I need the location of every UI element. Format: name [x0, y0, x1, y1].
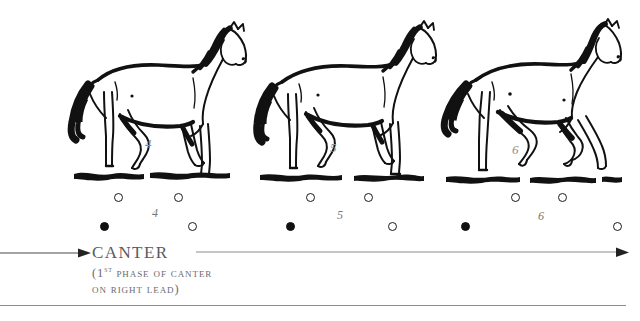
hoof-dot-hind-left-5: [306, 193, 315, 202]
frame-number-6: 6: [512, 142, 519, 158]
ground-line-6: [444, 172, 624, 186]
gait-subtitle-line-2: on right lead): [92, 282, 180, 297]
gait-title: Canter: [92, 243, 168, 263]
hoof-dot-hind-right-4: [174, 193, 183, 202]
direction-arrow-left: [0, 247, 92, 259]
footfall-label-5: 5: [337, 208, 343, 223]
horse-illustration-6: [432, 18, 632, 183]
ground-line-4: [72, 168, 232, 182]
hoof-dot-fore-right-5: [388, 222, 397, 231]
gait-subtitle-rest: phase of Canter: [112, 266, 212, 280]
gait-subtitle-prefix: (1: [92, 266, 104, 280]
gait-subtitle-line-1: (1st phase of Canter: [92, 264, 212, 281]
footfall-label-6: 6: [538, 209, 544, 224]
footer-rule: [0, 305, 626, 306]
frame-number-4: 4: [145, 136, 152, 152]
direction-arrow-right: [196, 247, 630, 259]
frame-number-5: 5: [330, 140, 337, 156]
hoof-dot-fore-right-6: [613, 222, 622, 231]
hoof-dot-hind-right-5: [364, 193, 373, 202]
hoof-dot-fore-left-4: [100, 222, 109, 231]
gait-title-text: Canter: [92, 243, 168, 262]
footfall-label-4: 4: [152, 206, 158, 221]
hoof-dot-fore-left-5: [286, 222, 295, 231]
hoof-dot-hind-right-6: [558, 193, 567, 202]
horse-illustration-4: [60, 18, 250, 178]
hoof-dot-fore-right-4: [188, 222, 197, 231]
canter-gait-figure: 4 5 6 4 5 6 Canter (1st phase of Canter …: [0, 0, 640, 321]
horse-illustration-5: [248, 18, 438, 178]
hoof-dot-fore-left-6: [461, 222, 470, 231]
hoof-dot-hind-left-4: [114, 193, 123, 202]
ground-line-5: [258, 170, 426, 184]
hoof-dot-hind-left-6: [511, 193, 520, 202]
